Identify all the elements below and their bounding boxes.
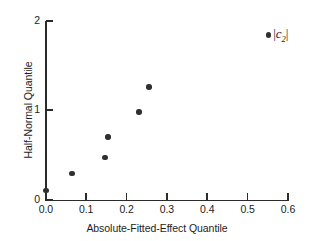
x-tick-label-0.3: 0.3: [150, 203, 184, 215]
data-point: [146, 84, 151, 89]
y-tick-0: [46, 199, 53, 201]
y-tick-2: [46, 20, 53, 22]
half-normal-quantile-plot: 012 0.00.10.20.30.40.50.6 |c2| Half-Norm…: [0, 0, 314, 241]
legend: |c2|: [266, 27, 288, 43]
x-tick-label-0.2: 0.2: [110, 203, 144, 215]
legend-marker-icon: [266, 32, 271, 37]
x-tick-label-0.0: 0.0: [29, 203, 63, 215]
x-tick-label-0.4: 0.4: [190, 203, 224, 215]
y-axis-title: Half-Normal Quantile: [22, 20, 34, 200]
data-point: [69, 171, 74, 176]
x-tick-0.0: [45, 193, 47, 200]
x-axis-title: Absolute-Fitted-Effect Quantile: [0, 222, 314, 234]
x-tick-0.2: [126, 193, 128, 200]
legend-label: |c2|: [273, 27, 288, 43]
data-point: [43, 188, 48, 193]
data-point: [102, 155, 107, 160]
x-tick-0.5: [247, 193, 249, 200]
x-tick-label-0.6: 0.6: [271, 203, 305, 215]
x-tick-label-0.1: 0.1: [69, 203, 103, 215]
data-point: [105, 134, 110, 139]
x-tick-0.6: [287, 193, 289, 200]
data-point: [136, 109, 141, 114]
x-tick-label-0.5: 0.5: [231, 203, 265, 215]
y-tick-1: [46, 109, 53, 111]
x-tick-0.1: [85, 193, 87, 200]
x-tick-0.4: [206, 193, 208, 200]
x-tick-0.3: [166, 193, 168, 200]
